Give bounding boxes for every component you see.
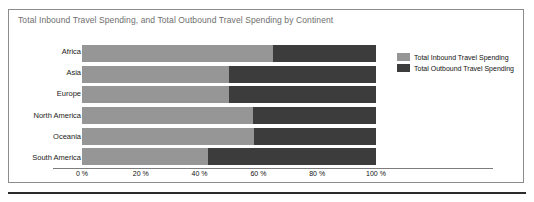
x-axis-line — [53, 168, 493, 169]
chart-plot-wrapper: AfricaAsiaEuropeNorth AmericaOceaniaSout… — [9, 36, 523, 184]
bar-row[interactable] — [82, 66, 376, 83]
bar-segment-inbound[interactable] — [82, 148, 208, 165]
x-axis-tick-label: 80 % — [309, 170, 325, 177]
bar-segment-outbound[interactable] — [273, 45, 376, 62]
bar-segment-inbound[interactable] — [82, 128, 254, 145]
category-axis: AfricaAsiaEuropeNorth AmericaOceaniaSout… — [15, 43, 81, 167]
category-label: Africa — [15, 43, 81, 61]
bar-segment-inbound[interactable] — [82, 86, 229, 103]
bar-row[interactable] — [82, 148, 376, 165]
x-axis-tick-label: 0 % — [76, 170, 88, 177]
x-axis: 0 %20 %40 %60 %80 %100 % — [82, 170, 376, 184]
bar-row[interactable] — [82, 86, 376, 103]
x-axis-tick-label: 100 % — [366, 170, 386, 177]
x-axis-tick-label: 20 % — [133, 170, 149, 177]
legend-swatch-icon — [397, 53, 410, 61]
bar-row[interactable] — [82, 128, 376, 145]
category-label: Oceania — [15, 128, 81, 146]
chart-legend: Total Inbound Travel SpendingTotal Outbo… — [397, 53, 521, 75]
bar-segment-inbound[interactable] — [82, 66, 229, 83]
page-divider — [8, 192, 526, 194]
bar-segment-inbound[interactable] — [82, 107, 253, 124]
legend-item[interactable]: Total Inbound Travel Spending — [397, 53, 521, 61]
category-label: South America — [15, 149, 81, 167]
bar-segment-outbound[interactable] — [253, 107, 376, 124]
plot-area — [82, 43, 376, 167]
legend-swatch-icon — [397, 64, 410, 72]
bar-row[interactable] — [82, 107, 376, 124]
chart-title: Total Inbound Travel Spending, and Total… — [18, 15, 333, 25]
bar-segment-outbound[interactable] — [254, 128, 376, 145]
chart-card: Total Inbound Travel Spending, and Total… — [8, 9, 524, 183]
bar-segment-inbound[interactable] — [82, 45, 273, 62]
category-label: North America — [15, 107, 81, 125]
legend-label: Total Inbound Travel Spending — [414, 54, 509, 61]
category-label: Europe — [15, 85, 81, 103]
bar-segment-outbound[interactable] — [208, 148, 376, 165]
legend-label: Total Outbound Travel Spending — [414, 65, 514, 72]
bar-row[interactable] — [82, 45, 376, 62]
category-label: Asia — [15, 64, 81, 82]
bar-segment-outbound[interactable] — [229, 66, 376, 83]
x-axis-tick-label: 60 % — [250, 170, 266, 177]
bar-segment-outbound[interactable] — [229, 86, 376, 103]
x-axis-tick-label: 40 % — [192, 170, 208, 177]
legend-item[interactable]: Total Outbound Travel Spending — [397, 64, 521, 72]
